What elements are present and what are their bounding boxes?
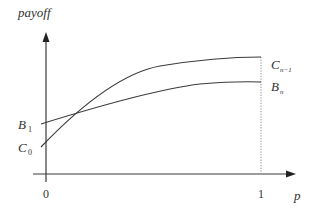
label-c0: C 0 <box>18 140 32 157</box>
svg-text:C: C <box>271 57 280 72</box>
svg-text:0: 0 <box>28 148 32 157</box>
curve-b <box>41 82 261 124</box>
x-tick-1: 1 <box>258 187 264 201</box>
svg-text:C: C <box>18 140 27 155</box>
y-axis-arrow-icon <box>43 32 50 42</box>
svg-text:1: 1 <box>28 125 32 134</box>
label-c-n-minus-1: C n−1 <box>271 57 292 74</box>
x-tick-0: 0 <box>43 187 49 201</box>
x-axis-label: p <box>293 188 301 203</box>
svg-text:B: B <box>271 79 279 94</box>
svg-text:n: n <box>280 88 284 96</box>
svg-text:B: B <box>18 117 26 132</box>
curve-c <box>41 57 261 147</box>
x-axis-arrow-icon <box>286 171 296 178</box>
svg-text:n−1: n−1 <box>280 66 292 74</box>
label-b-n: B n <box>271 79 284 96</box>
y-axis-label: payoff <box>17 5 53 20</box>
label-b1: B 1 <box>18 117 32 134</box>
payoff-diagram: payoff p 0 1 B 1 C 0 C n−1 B n <box>0 0 315 211</box>
